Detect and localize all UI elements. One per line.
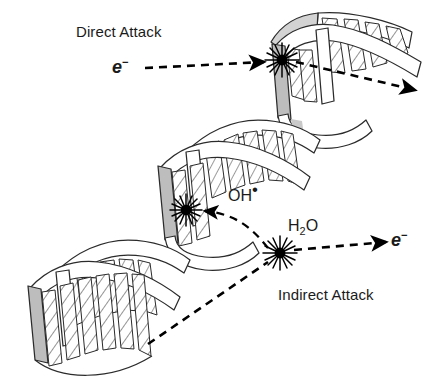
indirect-attack-label: Indirect Attack (278, 287, 374, 302)
dna-radiation-damage-figure: Direct Attack e− OH• H2O e− Indirect Att… (0, 0, 429, 384)
dna-helix-icon (0, 0, 429, 384)
hydroxyl-radical-label: OH• (228, 188, 258, 204)
water-molecule-label: H2O (288, 218, 318, 237)
starburst-icon (263, 236, 297, 270)
dashed-arrow-icon (145, 62, 264, 68)
direct-attack-label: Direct Attack (76, 24, 162, 39)
electron-outgoing-charge: − (401, 229, 408, 241)
starburst-icon (170, 194, 202, 226)
curved-dashed-arrow-icon (205, 211, 268, 248)
radical-dot-icon: • (252, 180, 258, 199)
starburst-icon (265, 43, 299, 77)
water-oxygen: O (306, 217, 318, 234)
hydroxyl-radical-formula: OH (228, 187, 252, 204)
electron-outgoing-label: e− (391, 230, 408, 249)
electron-incoming-symbol: e (112, 57, 122, 77)
dashed-arrow-icon (294, 242, 386, 250)
water-hydrogen: H (288, 217, 300, 234)
electron-outgoing-symbol: e (391, 230, 401, 250)
electron-incoming-label: e− (112, 57, 129, 76)
electron-incoming-charge: − (122, 56, 129, 68)
